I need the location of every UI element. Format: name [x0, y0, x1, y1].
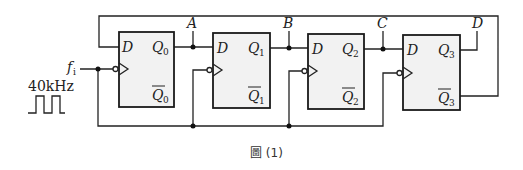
- ff2-d-label: D: [311, 41, 323, 57]
- node-b-label: B: [282, 15, 293, 31]
- junction-dot: [381, 47, 386, 52]
- wire-node-d: [460, 31, 477, 50]
- svg-text:2: 2: [353, 49, 359, 59]
- clock-bubble-2: [302, 69, 307, 74]
- clock-ff1: [193, 70, 207, 126]
- svg-text:0: 0: [163, 95, 169, 105]
- node-c-label: C: [377, 15, 388, 31]
- svg-text:3: 3: [449, 50, 455, 60]
- svg-text:i: i: [73, 67, 76, 77]
- clock-bubble-3: [397, 71, 402, 76]
- shift-register-circuit: D Q 0 Q 0 D Q 1 Q 1 D Q 2 Q 2 D Q 3 Q 3 …: [0, 0, 523, 170]
- ff3-d-label: D: [406, 42, 418, 58]
- node-d-label: D: [471, 15, 483, 31]
- svg-text:1: 1: [259, 48, 265, 58]
- frequency-label: 40kHz: [28, 78, 74, 94]
- junction-dot: [191, 124, 196, 129]
- junction-dot: [287, 46, 292, 51]
- clock-ff2: [289, 71, 302, 126]
- ff0-d-label: D: [121, 39, 133, 55]
- junction-dot: [191, 45, 196, 50]
- ff1-d-label: D: [216, 40, 228, 56]
- svg-text:2: 2: [353, 97, 359, 107]
- junction-dot: [96, 67, 101, 72]
- svg-text:0: 0: [163, 47, 169, 57]
- node-a-label: A: [185, 15, 197, 31]
- svg-text:3: 3: [449, 98, 455, 108]
- junction-dot: [287, 124, 292, 129]
- clock-bubble-1: [207, 68, 212, 73]
- figure-caption: 圖 (1): [250, 146, 283, 160]
- square-wave-icon: [28, 96, 65, 113]
- clock-bubble-0: [113, 67, 118, 72]
- svg-text:1: 1: [259, 96, 265, 106]
